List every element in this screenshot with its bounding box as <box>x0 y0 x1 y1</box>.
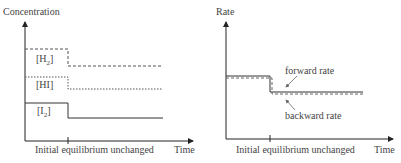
left-x-axis-label: Time <box>174 145 195 155</box>
right-tick-label: Initial equilibrium unchanged <box>236 145 355 155</box>
label-hi: [HI] <box>36 80 53 90</box>
label-i2: [I2] <box>37 106 51 119</box>
label-backward-rate: backward rate <box>285 111 341 121</box>
right-x-axis-label: Time <box>374 145 395 155</box>
label-forward-rate: forward rate <box>285 66 334 76</box>
label-h2: [H2] <box>36 54 53 67</box>
right-axes <box>226 22 393 142</box>
left-y-axis-label: Concentration <box>3 7 60 17</box>
right-y-axis-label: Rate <box>216 7 234 17</box>
charts-canvas <box>0 0 401 163</box>
left-tick-label: Initial equilibrium unchanged <box>35 145 154 155</box>
